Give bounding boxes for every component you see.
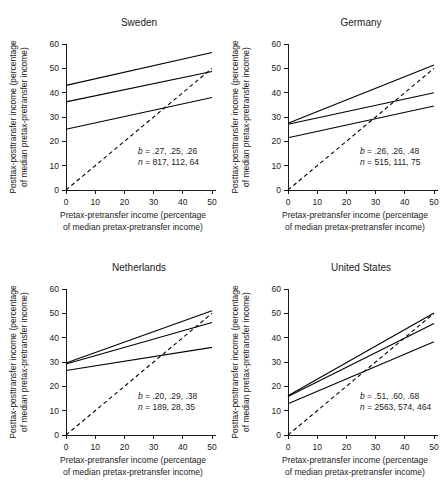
panel-germany: Germany010203040506001020304050Pretax-pr… [222,0,444,245]
y-tick-label: 50 [50,63,60,73]
x-axis-caption-line1: Pretax-pretransfer income (percentage [282,210,428,220]
axis-lines [66,44,216,190]
y-tick-label: 30 [50,357,60,367]
y-axis-caption-line1: Posttax-posttransfer income (percentage [230,40,240,194]
annotation-n: n = 2563, 574, 464 [360,402,431,412]
y-tick-label: 60 [272,284,282,294]
x-tick-label: 50 [207,197,217,207]
axis-lines [66,289,216,435]
y-tick-label: 0 [276,430,281,440]
x-tick-label: 20 [342,197,352,207]
panel-title-sweden: Sweden [121,17,157,28]
y-tick-label: 30 [50,112,60,122]
x-tick-label: 20 [342,442,352,452]
y-axis-caption-line2: of median pretax-pretransfer income) [241,47,251,187]
x-tick-label: 10 [312,442,322,452]
line-upper [288,65,434,123]
y-tick-label: 60 [50,39,60,49]
y-tick-label: 50 [272,308,282,318]
line-upper [66,53,212,86]
y-tick-label: 20 [50,136,60,146]
y-tick-label: 60 [272,39,282,49]
annotation-n: n = 515, 111, 75 [360,157,421,167]
y-tick-label: 40 [50,333,60,343]
x-axis-caption-line1: Pretax-pretransfer income (percentage [60,455,206,465]
x-tick-label: 40 [400,442,410,452]
line-middle [288,324,434,397]
figure-four-panel-income-mobility: Sweden010203040506001020304050Pretax-pre… [0,0,444,490]
x-tick-label: 30 [149,442,159,452]
y-tick-label: 0 [54,185,59,195]
annotation-n: n = 189, 28, 35 [138,402,195,412]
annotation-b: b = .27, .25, .26 [138,146,198,156]
panel-title-germany: Germany [340,17,381,28]
y-tick-label: 0 [54,430,59,440]
y-tick-label: 30 [272,357,282,367]
y-axis-caption-line2: of median pretax-pretransfer income) [19,292,29,432]
x-tick-label: 50 [207,442,217,452]
line-upper [66,311,212,363]
y-tick-label: 40 [50,88,60,98]
line-middle [288,93,434,125]
y-tick-label: 10 [50,406,60,416]
y-tick-label: 10 [272,161,282,171]
x-axis-caption-line1: Pretax-pretransfer income (percentage [60,210,206,220]
y-axis-caption-line1: Posttax-posttransfer income (percentage [8,40,18,194]
annotation-b: b = .51, .60, .68 [360,391,420,401]
x-tick-label: 20 [120,442,130,452]
x-tick-label: 10 [312,197,322,207]
x-tick-label: 40 [178,442,188,452]
y-axis-caption-line2: of median pretax-pretransfer income) [241,292,251,432]
x-axis-caption-line2: of median pretax-pretransfer income) [63,222,203,232]
x-tick-label: 0 [286,442,291,452]
y-tick-label: 10 [272,406,282,416]
panel-title-united-states: United States [331,262,391,273]
x-axis-caption-line2: of median pretax-pretransfer income) [63,467,203,477]
y-axis-caption-line1: Posttax-posttransfer income (percentage [230,285,240,439]
panel-sweden: Sweden010203040506001020304050Pretax-pre… [0,0,222,245]
x-axis-caption-line2: of median pretax-pretransfer income) [285,467,425,477]
y-tick-label: 40 [272,333,282,343]
x-tick-label: 10 [90,442,100,452]
x-tick-label: 0 [286,197,291,207]
x-tick-label: 30 [371,197,381,207]
y-tick-label: 40 [272,88,282,98]
annotation-b: b = .26, .26, .48 [360,146,420,156]
y-tick-label: 20 [50,381,60,391]
y-tick-label: 30 [272,112,282,122]
axis-lines [288,289,438,435]
x-tick-label: 50 [429,442,439,452]
line-middle [66,323,212,364]
y-axis-caption-line2: of median pretax-pretransfer income) [19,47,29,187]
x-tick-label: 0 [64,197,69,207]
line-lower [66,98,212,130]
annotation-b: b = .20, .29, .38 [138,391,198,401]
diagonal-reference [288,313,434,435]
x-tick-label: 30 [371,442,381,452]
axis-lines [288,44,438,190]
y-tick-label: 20 [272,136,282,146]
y-tick-label: 10 [50,161,60,171]
panel-netherlands: Netherlands010203040506001020304050Preta… [0,245,222,490]
x-axis-caption-line1: Pretax-pretransfer income (percentage [282,455,428,465]
line-upper [288,313,434,396]
x-tick-label: 0 [64,442,69,452]
x-tick-label: 40 [178,197,188,207]
annotation-n: n = 817, 112, 64 [138,157,199,167]
x-tick-label: 40 [400,197,410,207]
x-axis-caption-line2: of median pretax-pretransfer income) [285,222,425,232]
y-tick-label: 50 [272,63,282,73]
line-lower [66,347,212,370]
y-axis-caption-line1: Posttax-posttransfer income (percentage [8,285,18,439]
diagonal-reference [288,68,434,190]
x-tick-label: 10 [90,197,100,207]
panel-united-states: United States010203040506001020304050Pre… [222,245,444,490]
line-lower [288,106,434,138]
y-tick-label: 0 [276,185,281,195]
y-tick-label: 50 [50,308,60,318]
panel-title-netherlands: Netherlands [112,262,166,273]
x-tick-label: 50 [429,197,439,207]
x-tick-label: 20 [120,197,130,207]
y-tick-label: 20 [272,381,282,391]
x-tick-label: 30 [149,197,159,207]
